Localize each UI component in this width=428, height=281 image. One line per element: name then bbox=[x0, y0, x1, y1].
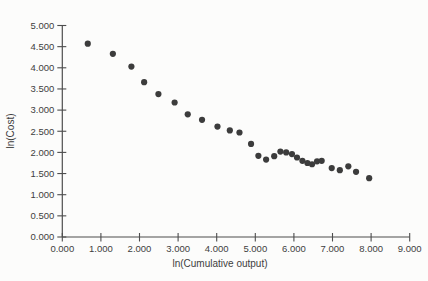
figure: 0.0000.5001.0001.5002.0002.5003.0003.500… bbox=[0, 0, 428, 281]
data-point bbox=[277, 148, 283, 154]
data-point bbox=[263, 156, 269, 162]
data-point bbox=[128, 63, 134, 69]
y-tick-label: 5.000 bbox=[31, 20, 55, 31]
data-point bbox=[319, 158, 325, 164]
data-point bbox=[248, 141, 254, 147]
x-tick-label: 3.000 bbox=[166, 243, 190, 254]
x-tick-label: 2.000 bbox=[128, 243, 152, 254]
data-point bbox=[337, 167, 343, 173]
y-tick-label: 3.500 bbox=[31, 83, 55, 94]
x-tick-label: 0.000 bbox=[50, 243, 74, 254]
data-point bbox=[236, 129, 242, 135]
y-tick-label: 0.000 bbox=[31, 231, 55, 242]
x-axis-title: ln(Cumulative output) bbox=[172, 258, 267, 269]
x-tick-label: 4.000 bbox=[205, 243, 229, 254]
data-point bbox=[172, 99, 178, 105]
data-point bbox=[255, 153, 261, 159]
tick-marks bbox=[57, 26, 409, 242]
data-point bbox=[199, 117, 205, 123]
tick-labels: 0.0000.5001.0001.5002.0002.5003.0003.500… bbox=[31, 20, 422, 254]
axes bbox=[62, 26, 409, 238]
y-tick-label: 4.500 bbox=[31, 41, 55, 52]
data-point bbox=[271, 153, 277, 159]
data-point bbox=[366, 175, 372, 181]
y-axis-title: ln(Cost) bbox=[5, 113, 16, 148]
x-tick-label: 7.000 bbox=[321, 243, 345, 254]
x-tick-label: 9.000 bbox=[398, 243, 422, 254]
data-point bbox=[227, 127, 233, 133]
data-points bbox=[85, 41, 373, 182]
data-point bbox=[110, 51, 116, 57]
data-point bbox=[155, 91, 161, 97]
data-point bbox=[353, 169, 359, 175]
x-tick-label: 8.000 bbox=[359, 243, 383, 254]
x-tick-label: 5.000 bbox=[243, 243, 267, 254]
data-point bbox=[283, 149, 289, 155]
data-point bbox=[85, 41, 91, 47]
data-point bbox=[345, 163, 351, 169]
scatter-chart: 0.0000.5001.0001.5002.0002.5003.0003.500… bbox=[0, 0, 428, 281]
y-tick-label: 2.000 bbox=[31, 147, 55, 158]
data-point bbox=[185, 111, 191, 117]
x-tick-label: 6.000 bbox=[282, 243, 306, 254]
y-tick-label: 2.500 bbox=[31, 126, 55, 137]
data-point bbox=[214, 123, 220, 129]
y-tick-label: 1.000 bbox=[31, 189, 55, 200]
y-tick-label: 3.000 bbox=[31, 104, 55, 115]
y-tick-label: 1.500 bbox=[31, 168, 55, 179]
y-tick-label: 4.000 bbox=[31, 62, 55, 73]
data-point bbox=[141, 79, 147, 85]
data-point bbox=[294, 154, 300, 160]
data-point bbox=[329, 165, 335, 171]
x-tick-label: 1.000 bbox=[89, 243, 113, 254]
y-tick-label: 0.500 bbox=[31, 210, 55, 221]
